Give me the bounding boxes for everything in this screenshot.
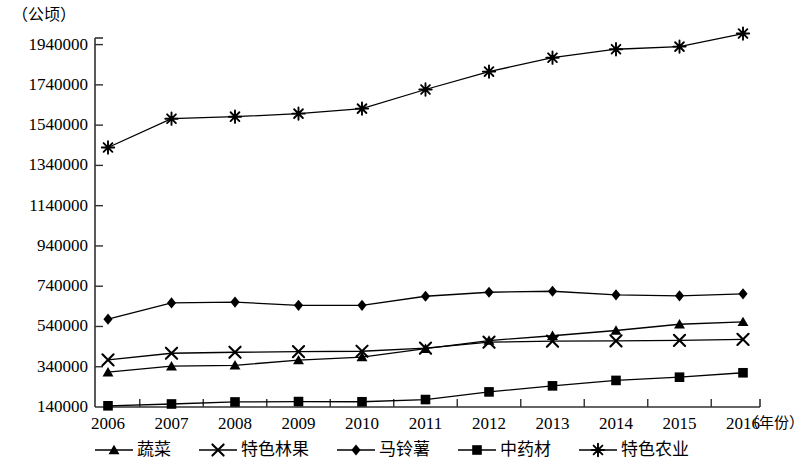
legend-label: 中药材 (500, 441, 551, 459)
square-marker (611, 376, 621, 386)
series-cross (102, 334, 748, 366)
x-axis-tick-label: 2007 (140, 414, 204, 433)
x-axis-tick-label: 2009 (267, 414, 331, 433)
diamond-marker (103, 314, 112, 325)
square-marker (472, 445, 482, 455)
square-marker (421, 395, 431, 405)
series-asterisk (102, 27, 749, 153)
asterisk-marker (546, 51, 558, 63)
data-series-layer (102, 27, 749, 410)
series-square (103, 368, 748, 411)
legend-item[interactable]: 蔬菜 (93, 441, 171, 459)
asterisk-marker (356, 102, 368, 114)
asterisk-marker (673, 40, 685, 52)
diamond-marker (548, 286, 557, 297)
asterisk-marker (737, 27, 749, 39)
square-marker (738, 368, 748, 378)
asterisk-marker (292, 107, 304, 119)
x-axis-tick-label: 2006 (76, 414, 140, 433)
square-marker (103, 401, 113, 411)
square-marker (548, 381, 558, 391)
asterisk-marker (592, 444, 604, 456)
x-axis-tick-label: 2011 (394, 414, 458, 433)
asterisk-marker (165, 112, 177, 124)
diamond-marker (294, 300, 303, 311)
y-axis-ticks (95, 45, 103, 367)
x-axis-tick-label: 2012 (457, 414, 521, 433)
diamond-marker (738, 288, 747, 299)
cross-marker (197, 441, 239, 459)
square-marker (456, 441, 498, 459)
legend-label: 蔬菜 (137, 441, 171, 459)
square-marker (230, 397, 240, 407)
x-axis-tick-label: 2010 (330, 414, 394, 433)
square-marker (675, 372, 685, 382)
legend-item[interactable]: 特色林果 (197, 441, 309, 459)
asterisk-marker (483, 65, 495, 77)
series-triangle (103, 317, 749, 377)
legend-label: 特色农业 (621, 441, 689, 459)
x-axis-title: （年份） (744, 414, 799, 433)
legend-item[interactable]: 中药材 (456, 441, 551, 459)
legend-label: 特色林果 (241, 441, 309, 459)
diamond-marker (421, 291, 430, 302)
chart-legend: 蔬菜特色林果马铃薯中药材特色农业 (0, 441, 782, 459)
legend-item[interactable]: 特色农业 (577, 441, 689, 459)
asterisk-marker (102, 141, 114, 153)
asterisk-marker (229, 110, 241, 122)
triangle-marker (93, 441, 135, 459)
square-marker (357, 397, 367, 407)
x-axis-tick-label: 2014 (584, 414, 648, 433)
diamond-marker (335, 441, 377, 459)
asterisk-marker (610, 43, 622, 55)
diamond-marker (167, 297, 176, 308)
square-marker (484, 387, 494, 397)
diamond-marker (357, 300, 366, 311)
diamond-marker (611, 289, 620, 300)
x-axis-tick-label: 2013 (521, 414, 585, 433)
square-marker (294, 397, 304, 407)
diamond-marker (230, 297, 239, 308)
asterisk-marker (419, 83, 431, 95)
diamond-marker (351, 444, 360, 455)
asterisk-marker (577, 441, 619, 459)
x-axis-tick-label: 2015 (648, 414, 712, 433)
square-marker (167, 399, 177, 409)
diamond-marker (675, 290, 684, 301)
series-diamond (103, 286, 747, 325)
legend-item[interactable]: 马铃薯 (335, 441, 430, 459)
legend-label: 马铃薯 (379, 441, 430, 459)
x-axis-tick-label: 2008 (203, 414, 267, 433)
diamond-marker (484, 287, 493, 298)
